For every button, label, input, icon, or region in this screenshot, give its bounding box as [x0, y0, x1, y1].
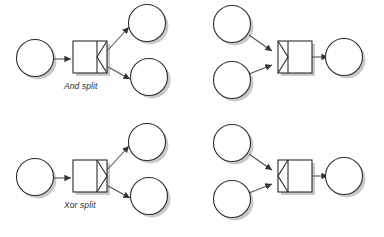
panel-xor-join: Xor join: [192, 119, 384, 237]
arc-input-2-to-gateway: [249, 65, 272, 74]
place-input: [17, 40, 54, 77]
panel-and-split: And split: [0, 0, 192, 118]
place-output-1: [129, 5, 166, 42]
place-input-2: [214, 62, 251, 99]
gateway-box: [278, 41, 312, 73]
arc-input-2-to-gateway: [249, 184, 272, 193]
place-output-1: [129, 124, 166, 161]
arc-gateway-to-output-1: [108, 146, 129, 169]
gateway-box: [278, 160, 312, 192]
arc-gateway-to-output-2: [108, 67, 130, 79]
place-input-2: [214, 181, 251, 218]
panel-caption: And split: [64, 81, 98, 91]
arc-gateway-to-output-1: [108, 27, 129, 50]
arc-input-1-to-gateway: [249, 35, 272, 51]
place-output: [326, 39, 363, 76]
workflow-notation-diagram: And split: [0, 0, 384, 237]
gateway-box: [73, 160, 107, 192]
place-output-2: [131, 59, 168, 96]
arc-input-1-to-gateway: [249, 154, 272, 170]
place-input-1: [214, 6, 251, 43]
panel-xor-split: Xor split: [0, 119, 192, 237]
place-output-2: [131, 178, 168, 215]
arc-gateway-to-output-2: [108, 186, 130, 198]
place-output: [326, 158, 363, 195]
place-input-1: [214, 125, 251, 162]
place-input: [17, 159, 54, 196]
panel-caption: Xor split: [64, 200, 96, 210]
panel-and-join: And join: [192, 0, 384, 118]
gateway-box: [73, 41, 107, 73]
